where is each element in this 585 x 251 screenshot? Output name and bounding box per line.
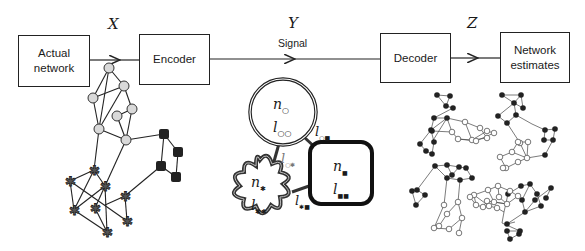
- network-estimates-graphs: [0, 0, 585, 251]
